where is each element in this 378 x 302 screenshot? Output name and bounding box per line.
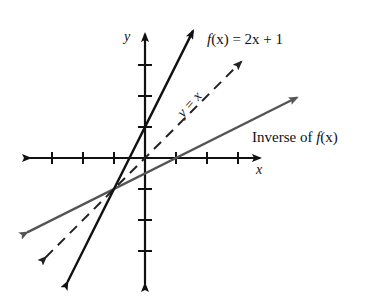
inverse-function-diagram: x y f(x) = 2x + 1 y = x Inverse of f(x) [0,0,378,302]
graph-svg: x y f(x) = 2x + 1 y = x Inverse of f(x) [0,0,378,302]
y-axis-label: y [122,29,131,44]
x-axis-label: x [255,162,263,177]
f-line [68,31,194,282]
identity-line-dashed [46,62,241,257]
inverse-label: Inverse of f(x) [252,129,338,146]
f-label: f(x) = 2x + 1 [207,31,283,48]
identity-label: y = x [173,88,205,122]
